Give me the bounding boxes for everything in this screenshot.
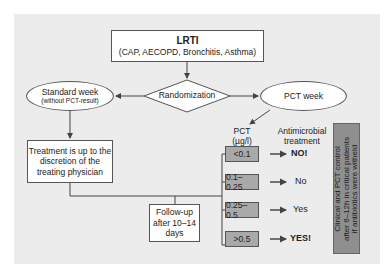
antimicrobial-header-line-1: Antimicrobial [272, 126, 332, 136]
pct-range-box: >0.5 [225, 231, 259, 247]
treatment-line-1: Treatment is up to the [29, 146, 111, 157]
follow-up-box: Follow-up after 10–14 days [149, 204, 200, 242]
side-note-line-3: if antibiotics were witheld [351, 125, 360, 253]
lrti-subtitle: (CAP, AECOPD, Bronchitis, Asthma) [119, 47, 256, 58]
treatment-result: YES! [290, 233, 311, 243]
follow-up-line-1: Follow-up [156, 207, 193, 218]
pct-week-label: PCT week [284, 91, 323, 101]
side-note-line-1: Clinical and PCT control [334, 125, 343, 253]
pct-week-ellipse: PCT week [260, 81, 347, 111]
pct-range-box: 0.25–0.5 [225, 202, 259, 218]
antimicrobial-header: Antimicrobial treatment [272, 126, 332, 146]
treatment-line-2: discretion of the [40, 156, 100, 167]
pct-header: PCT (µg/l) [222, 126, 262, 146]
antimicrobial-header-line-2: treatment [272, 136, 332, 146]
treatment-result: NO! [291, 148, 308, 158]
treatment-result: No [295, 176, 307, 186]
standard-week-subtitle: (without PCT-result) [41, 97, 98, 105]
follow-up-line-3: days [166, 228, 184, 239]
clinical-control-text: Clinical and PCT control after 6–12h in … [334, 125, 360, 253]
treatment-result: Yes [293, 204, 308, 214]
standard-week-title: Standard week [42, 87, 99, 97]
randomization-label: Randomization [152, 90, 222, 100]
standard-week-ellipse: Standard week (without PCT-result) [26, 81, 114, 111]
treatment-discretion-box: Treatment is up to the discretion of the… [27, 140, 113, 183]
pct-range-box: <0.1 [225, 146, 259, 162]
pct-header-unit: (µg/l) [222, 136, 262, 146]
follow-up-line-2: after 10–14 [153, 218, 196, 229]
pct-range-box: 0.1–0.25 [225, 174, 259, 190]
pct-header-line-1: PCT [222, 126, 262, 136]
lrti-title: LRTI [176, 35, 198, 47]
clinical-control-note: Clinical and PCT control after 6–12h in … [333, 123, 360, 254]
lrti-box: LRTI (CAP, AECOPD, Bronchitis, Asthma) [111, 30, 264, 62]
treatment-line-3: treating physician [37, 167, 103, 178]
